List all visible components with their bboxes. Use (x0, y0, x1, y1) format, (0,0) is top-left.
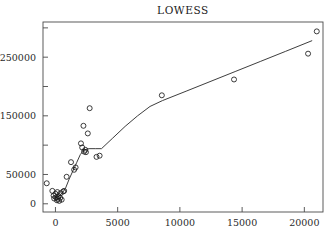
lowess-line (54, 41, 312, 199)
scatter-point (306, 51, 311, 56)
y-tick-label: 250000 (0, 52, 36, 63)
y-tick-label: 0 (30, 198, 36, 209)
scatter-point (159, 93, 164, 98)
scatter-point (81, 123, 86, 128)
scatter-points (44, 29, 319, 203)
scatter-point (87, 106, 92, 111)
y-axis: 050000150000250000 (0, 28, 48, 209)
x-tick-label: 15000 (227, 217, 257, 228)
scatter-point (85, 131, 90, 136)
scatter-point (314, 29, 319, 34)
scatter-point (97, 153, 102, 158)
scatter-point (50, 188, 55, 193)
x-tick-label: 10000 (165, 217, 195, 228)
chart-title: LOWESS (157, 4, 209, 16)
lowess-chart-figure: 05000015000025000005000100001500020000LO… (0, 0, 336, 250)
x-tick-label: 20000 (289, 217, 319, 228)
plot-frame (43, 22, 323, 212)
chart-canvas: 05000015000025000005000100001500020000LO… (0, 0, 336, 250)
scatter-point (64, 174, 69, 179)
scatter-point (232, 77, 237, 82)
x-axis: 05000100001500020000 (52, 207, 319, 228)
scatter-point (94, 154, 99, 159)
x-tick-label: 5000 (106, 217, 130, 228)
scatter-point (44, 181, 49, 186)
x-tick-label: 0 (52, 217, 58, 228)
y-tick-label: 150000 (0, 110, 36, 121)
y-tick-label: 50000 (6, 169, 36, 180)
scatter-point (69, 160, 74, 165)
